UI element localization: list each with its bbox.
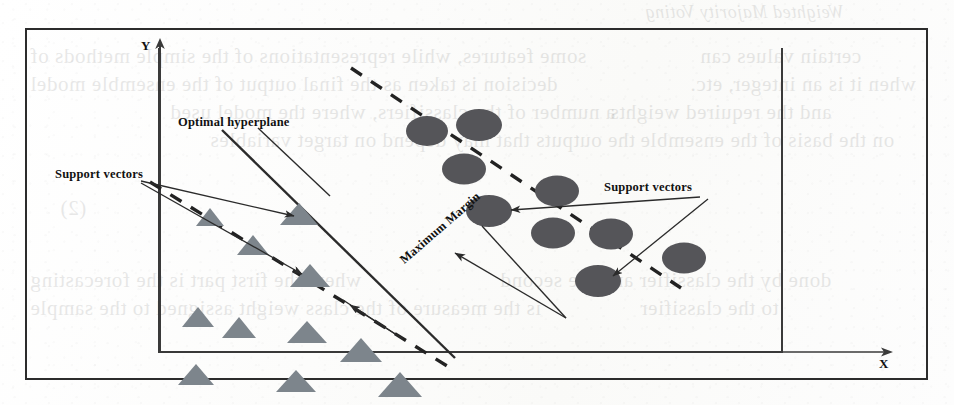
triangle-marker [178,364,214,385]
triangle-marker [222,317,256,338]
triangle-marker [378,372,422,397]
class-a-triangle-markers [178,203,422,397]
triangle-marker [290,264,330,287]
circle-marker [531,218,575,249]
triangle-marker [287,321,327,343]
triangle-marker [276,370,316,392]
label-support-vectors-left: Support vectors [55,167,143,182]
circle-marker [406,116,448,146]
label-optimal-hyperplane: Optimal hyperplane [178,115,290,130]
label-support-vectors-right: Support vectors [604,180,692,195]
circle-marker [535,176,579,207]
triangle-marker [182,307,214,327]
circle-marker [456,109,502,141]
circle-marker [589,219,633,250]
leader-optimal-hyperplane [258,128,330,196]
figure-page: Weighted Majority Votingsome features, w… [0,0,954,405]
axis-label-x: X [879,356,889,372]
axis-label-y: Y [141,38,151,54]
class-b-circle-markers [406,109,706,297]
axis-x [160,347,893,356]
triangle-marker [340,338,382,362]
circle-marker [662,243,706,274]
circle-marker [442,154,486,185]
circle-marker [575,265,621,297]
